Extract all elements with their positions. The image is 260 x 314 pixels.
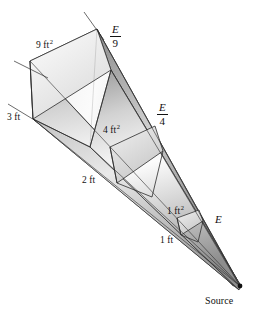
- label-area-1-sqft: 1 ft2: [167, 207, 184, 217]
- label-source: Source: [205, 296, 233, 306]
- label-distance-3ft: 3 ft: [7, 113, 20, 123]
- label-distance-2ft: 2 ft: [82, 176, 95, 186]
- source-point: [238, 284, 243, 289]
- label-intensity-e-over-4: E 4: [157, 102, 168, 127]
- label-intensity-e: E: [215, 214, 222, 225]
- label-area-4-sqft: 4 ft2: [103, 126, 120, 136]
- label-intensity-e-over-9: E 9: [110, 24, 121, 49]
- label-distance-1ft: 1 ft: [160, 236, 173, 246]
- label-area-9-sqft: 9 ft2: [36, 41, 53, 51]
- inverse-square-law-diagram: 9 ft2 E 9 3 ft 4 ft2 E 4 2 ft 1 ft2 E 1 …: [0, 0, 260, 314]
